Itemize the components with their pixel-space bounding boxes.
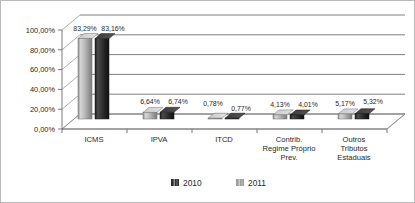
- legend-item-2011[interactable]: 2011: [236, 178, 266, 188]
- data-label-2011: 4,01%: [298, 101, 318, 108]
- x-axis: [62, 129, 387, 133]
- bar-2011-icms-top: [95, 34, 115, 39]
- data-label-2011: 5,32%: [363, 98, 383, 105]
- gridlines: [80, 15, 405, 114]
- bar-2010-icms-top: [78, 34, 98, 39]
- y-axis-tick-labels: 100,00% 80,00% 60,00% 40,00% 20,00% 0,00…: [26, 26, 56, 134]
- bar-2011-ipva-top: [160, 107, 180, 112]
- data-label-2010: 6,64%: [140, 98, 160, 105]
- bar-2010-contrib: [273, 115, 287, 119]
- bar-2011-outros: [355, 114, 369, 119]
- x-axis-category-labels: ICMS IPVA ITCD Contrib. Regime Próprio P…: [85, 135, 371, 162]
- bar-2010-ipva-top: [143, 107, 163, 112]
- x-category-contrib-line2: Regime Próprio: [263, 144, 316, 153]
- data-label-2011: 6,74%: [168, 98, 188, 105]
- data-label-2010: 5,17%: [335, 100, 355, 107]
- x-category-ipva: IPVA: [151, 135, 169, 144]
- chart-container: 100,00% 80,00% 60,00% 40,00% 20,00% 0,00…: [0, 0, 415, 203]
- y-axis: [58, 30, 62, 129]
- x-category-contrib-line3: Prev.: [280, 153, 297, 162]
- bar-2011-outros-top: [355, 109, 375, 114]
- y-tick-label: 100,00%: [26, 26, 56, 35]
- legend-swatch-2010: [171, 179, 179, 186]
- y-tick-label: 40,00%: [30, 85, 55, 94]
- x-category-itcd: ITCD: [215, 135, 233, 144]
- bar-2010-itcd: [208, 118, 222, 119]
- bar-2011-contrib: [290, 115, 304, 119]
- legend-swatch-2011: [236, 179, 244, 186]
- chart-legend: 2010 2011: [171, 178, 266, 188]
- y-tick-label: 0,00%: [34, 125, 55, 134]
- x-category-outros-line3: Estaduais: [337, 153, 371, 162]
- data-label-2010: 4,13%: [270, 101, 290, 108]
- bar-2010-ipva: [143, 112, 157, 119]
- x-category-contrib-line1: Contrib.: [276, 135, 303, 144]
- legend-label-2011: 2011: [248, 178, 266, 188]
- x-category-outros-line2: Tributos: [340, 144, 367, 153]
- x-category-outros-line1: Outros: [343, 135, 366, 144]
- bar-2010-outros: [338, 114, 352, 119]
- bar-2011-ipva: [160, 112, 174, 119]
- y-tick-label: 60,00%: [30, 65, 55, 74]
- bar-2011-icms: [95, 39, 109, 119]
- data-label-2011: 0,77%: [231, 105, 251, 112]
- data-label-2010: 0,78%: [203, 100, 223, 107]
- bar-2010-icms: [78, 39, 92, 120]
- legend-item-2010[interactable]: 2010: [171, 178, 202, 188]
- y-tick-label: 20,00%: [30, 105, 55, 114]
- bar-2010-outros-top: [338, 109, 358, 114]
- x-category-icms: ICMS: [85, 135, 104, 144]
- y-tick-label: 80,00%: [30, 46, 55, 55]
- data-label-2011: 83,16%: [101, 25, 124, 32]
- legend-label-2010: 2010: [183, 178, 202, 188]
- bar-chart-3d: 100,00% 80,00% 60,00% 40,00% 20,00% 0,00…: [1, 1, 415, 203]
- data-label-2010: 83,29%: [73, 25, 96, 32]
- bar-2011-itcd: [225, 118, 239, 119]
- bar-group-icms: 83,29% 83,16%: [73, 25, 124, 120]
